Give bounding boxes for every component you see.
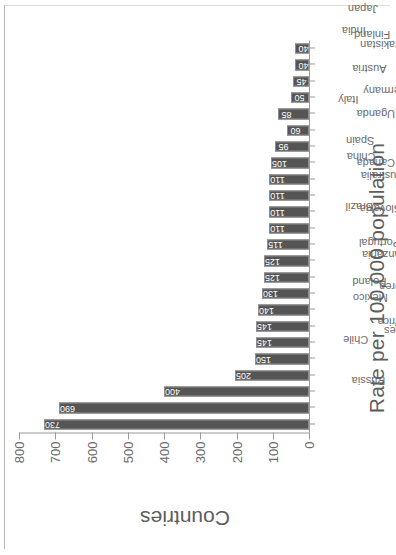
category-axis-tick xyxy=(309,423,315,424)
category-axis-tick xyxy=(309,227,315,228)
value-axis-tick xyxy=(19,432,20,439)
bar[interactable]: 115 xyxy=(267,239,309,249)
bar-value-label: 110 xyxy=(270,207,284,216)
category-axis-tick xyxy=(309,194,315,195)
bar-value-label: 140 xyxy=(259,305,274,314)
bar-value-label: 60 xyxy=(291,125,301,134)
bar[interactable]: 140 xyxy=(258,304,309,314)
bar-value-label: 110 xyxy=(270,191,284,200)
value-axis-tick xyxy=(164,432,165,439)
category-axis-label: Germany xyxy=(363,85,396,97)
bar[interactable]: 145 xyxy=(256,321,309,331)
bar-value-label: 400 xyxy=(165,387,180,396)
bar[interactable]: 125 xyxy=(264,255,309,265)
bar[interactable]: 40 xyxy=(295,43,310,53)
value-axis-tick-label: 800 xyxy=(12,441,27,463)
category-axis-tick xyxy=(309,374,315,375)
bar-value-label: 730 xyxy=(45,419,60,428)
category-axis-tick xyxy=(309,309,315,310)
category-axis-label: Brazil xyxy=(346,201,374,213)
bar[interactable]: 60 xyxy=(287,125,309,135)
category-axis-tick xyxy=(309,96,315,97)
bar[interactable]: 110 xyxy=(269,206,309,216)
bar[interactable]: 730 xyxy=(44,419,309,429)
category-axis-tick xyxy=(309,292,315,293)
bar-value-label: 110 xyxy=(270,223,284,232)
bar-value-label: 125 xyxy=(265,256,280,265)
category-axis-tick xyxy=(309,276,315,277)
category-axis-line xyxy=(309,40,310,432)
value-axis-tick xyxy=(309,432,310,439)
category-axis-tick xyxy=(309,80,315,81)
bar-value-label: 145 xyxy=(257,338,272,347)
bar-value-label: 105 xyxy=(272,158,287,167)
category-axis-tick xyxy=(309,178,315,179)
rotated-chart-wrapper: Countries Rate per 100,000 population 01… xyxy=(0,0,396,555)
bar[interactable]: 150 xyxy=(255,353,309,363)
category-axis-tick xyxy=(309,390,315,391)
value-axis-tick-label: 0 xyxy=(302,441,317,448)
category-axis-label: Austria xyxy=(352,63,386,75)
value-axis-tick xyxy=(237,432,238,439)
category-axis-tick xyxy=(309,341,315,342)
category-axis-label: Chile xyxy=(343,334,368,346)
category-axis-tick xyxy=(309,113,315,114)
category-axis-label: Uganda xyxy=(357,108,396,120)
category-axis-label: Portugal xyxy=(359,236,396,248)
bar-value-label: 50 xyxy=(294,93,304,102)
category-axis-tick xyxy=(309,64,315,65)
bar[interactable]: 40 xyxy=(295,59,310,69)
bar[interactable]: 50 xyxy=(291,92,309,102)
value-axis-tick-label: 200 xyxy=(229,441,244,463)
category-axis-label: Russia xyxy=(352,374,386,386)
category-axis-label: Spain xyxy=(346,135,374,147)
y-axis-title: Countries xyxy=(90,505,280,529)
category-axis-label: India xyxy=(342,25,366,37)
bar-value-label: 40 xyxy=(298,44,308,53)
value-axis-tick-label: 300 xyxy=(193,441,208,463)
bar-value-label: 85 xyxy=(282,109,292,118)
bar-value-label: 130 xyxy=(263,289,278,298)
bar-value-label: 95 xyxy=(278,142,288,151)
category-axis-tick xyxy=(309,260,315,261)
value-axis-tick xyxy=(128,432,129,439)
category-axis-tick xyxy=(309,243,315,244)
bar[interactable]: 110 xyxy=(269,174,309,184)
plot-area: 0100200300400500600700800 730Russia690Un… xyxy=(19,40,309,432)
value-axis-tick-label: 700 xyxy=(48,441,63,463)
bar[interactable]: 85 xyxy=(278,108,309,118)
bar[interactable]: 105 xyxy=(271,157,309,167)
value-axis-tick-label: 500 xyxy=(120,441,135,463)
bar-value-label: 110 xyxy=(270,174,284,183)
category-axis-label: Italy xyxy=(338,94,358,106)
bar[interactable]: 145 xyxy=(256,337,309,347)
category-axis-tick xyxy=(309,358,315,359)
category-axis-label: Mexico xyxy=(353,291,388,303)
value-axis-tick xyxy=(55,432,56,439)
bar[interactable]: 125 xyxy=(264,272,309,282)
bar[interactable]: 690 xyxy=(59,402,309,412)
value-axis-tick-label: 600 xyxy=(84,441,99,463)
category-axis-label: Tanzania xyxy=(362,249,396,261)
bar-value-label: 690 xyxy=(60,403,75,412)
bar-value-label: 45 xyxy=(296,76,306,85)
category-axis-tick xyxy=(309,129,315,130)
category-axis-label: China xyxy=(347,150,376,162)
bar[interactable]: 110 xyxy=(269,223,309,233)
bar[interactable]: 45 xyxy=(293,76,309,86)
bar-value-label: 150 xyxy=(256,354,271,363)
value-axis-tick xyxy=(92,432,93,439)
category-axis-tick xyxy=(309,145,315,146)
bar-value-label: 125 xyxy=(265,272,280,281)
value-axis-tick xyxy=(273,432,274,439)
bar[interactable]: 205 xyxy=(235,370,309,380)
category-axis-tick xyxy=(309,211,315,212)
bar-value-label: 145 xyxy=(257,321,272,330)
bar[interactable]: 400 xyxy=(164,386,309,396)
bar[interactable]: 95 xyxy=(275,141,309,151)
value-axis-tick-label: 100 xyxy=(265,441,280,463)
category-axis-label: Japan xyxy=(348,2,378,14)
bar[interactable]: 130 xyxy=(262,288,309,298)
category-axis-label: Australia xyxy=(361,169,396,181)
bar[interactable]: 110 xyxy=(269,190,309,200)
